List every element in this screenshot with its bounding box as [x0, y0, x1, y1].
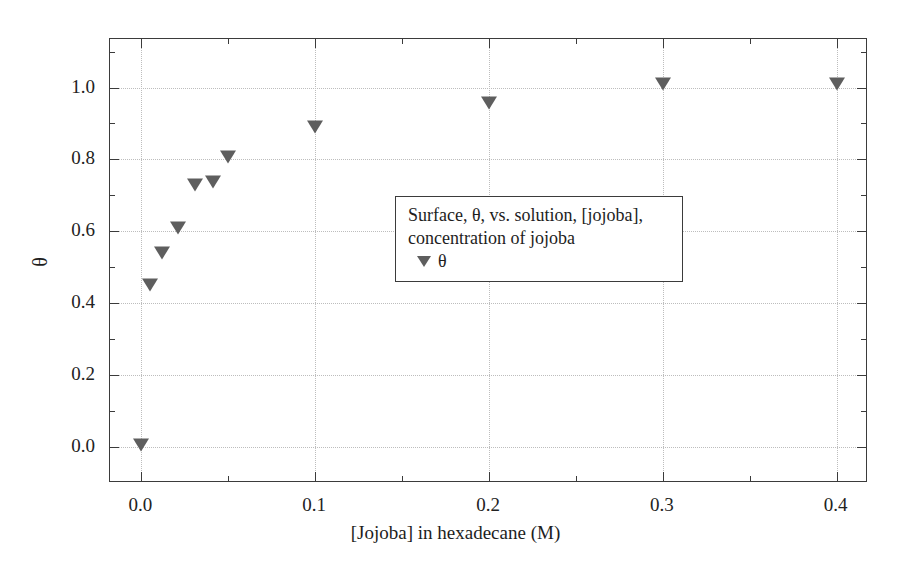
- x-axis-tick: [489, 39, 490, 48]
- y-axis-minor-tick: [861, 52, 866, 53]
- y-axis-minor-tick: [110, 339, 115, 340]
- data-point-marker: [307, 121, 323, 134]
- gridline-horizontal: [110, 88, 866, 89]
- y-axis-tick: [857, 88, 866, 89]
- data-point-marker: [170, 221, 186, 234]
- y-axis-minor-tick: [861, 123, 866, 124]
- y-axis-minor-tick: [110, 267, 115, 268]
- y-axis-tick-label: 1.0: [37, 76, 95, 98]
- y-axis-tick-label: 0.6: [37, 219, 95, 241]
- data-point-marker: [655, 77, 671, 90]
- x-axis-tick: [663, 39, 664, 48]
- data-point-marker: [829, 77, 845, 90]
- y-axis-tick-label: 0.4: [37, 291, 95, 313]
- data-point-marker: [481, 96, 497, 109]
- x-axis-minor-tick: [576, 476, 577, 481]
- legend-entry-label: θ: [438, 251, 447, 272]
- x-axis-minor-tick: [750, 39, 751, 44]
- triangle-down-icon: [417, 256, 431, 267]
- y-axis-tick: [110, 447, 119, 448]
- gridline-vertical: [315, 39, 316, 481]
- gridline-vertical: [141, 39, 142, 481]
- chart-legend: Surface, θ, vs. solution, [jojoba], conc…: [395, 196, 683, 282]
- gridline-horizontal: [110, 303, 866, 304]
- y-axis-minor-tick: [861, 339, 866, 340]
- data-point-marker: [205, 175, 221, 188]
- data-point-marker: [220, 151, 236, 164]
- x-axis-tick: [315, 472, 316, 481]
- x-axis-tick-label: 0.2: [476, 494, 500, 516]
- data-point-marker: [142, 279, 158, 292]
- y-axis-tick: [857, 447, 866, 448]
- y-axis-tick: [857, 231, 866, 232]
- y-axis-tick: [857, 159, 866, 160]
- x-axis-minor-tick: [228, 39, 229, 44]
- gridline-vertical: [837, 39, 838, 481]
- x-axis-minor-tick: [402, 476, 403, 481]
- x-axis-title: [Jojoba] in hexadecane (M): [0, 522, 911, 544]
- y-axis-minor-tick: [110, 411, 115, 412]
- y-axis-minor-tick: [110, 52, 115, 53]
- x-axis-tick: [141, 39, 142, 48]
- legend-entry-theta: θ: [408, 251, 672, 272]
- x-axis-tick: [663, 472, 664, 481]
- y-axis-tick: [110, 159, 119, 160]
- y-axis-tick: [857, 375, 866, 376]
- x-axis-tick: [489, 472, 490, 481]
- x-axis-tick: [315, 39, 316, 48]
- data-point-marker: [187, 179, 203, 192]
- x-axis-minor-tick: [228, 476, 229, 481]
- data-point-marker: [133, 439, 149, 452]
- x-axis-tick-label: 0.3: [650, 494, 674, 516]
- y-axis-tick: [110, 231, 119, 232]
- gridline-horizontal: [110, 447, 866, 448]
- x-axis-tick: [837, 39, 838, 48]
- y-axis-minor-tick: [861, 195, 866, 196]
- y-axis-tick-label: 0.2: [37, 363, 95, 385]
- data-point-marker: [154, 246, 170, 259]
- y-axis-tick: [857, 303, 866, 304]
- x-axis-tick-label: 0.4: [824, 494, 848, 516]
- gridline-horizontal: [110, 375, 866, 376]
- y-axis-minor-tick: [110, 123, 115, 124]
- scatter-chart-figure: [Jojoba] in hexadecane (M) θ Surface, θ,…: [0, 0, 911, 568]
- y-axis-title: θ: [29, 257, 52, 267]
- x-axis-tick-label: 0.0: [128, 494, 152, 516]
- y-axis-tick-label: 0.0: [37, 435, 95, 457]
- y-axis-tick: [110, 303, 119, 304]
- x-axis-minor-tick: [576, 39, 577, 44]
- x-axis-tick: [837, 472, 838, 481]
- x-axis-tick: [141, 472, 142, 481]
- legend-description-line-1: Surface, θ, vs. solution, [jojoba],: [408, 204, 672, 227]
- y-axis-minor-tick: [861, 267, 866, 268]
- x-axis-minor-tick: [402, 39, 403, 44]
- y-axis-tick: [110, 375, 119, 376]
- x-axis-tick-label: 0.1: [302, 494, 326, 516]
- x-axis-minor-tick: [750, 476, 751, 481]
- y-axis-minor-tick: [110, 195, 115, 196]
- y-axis-minor-tick: [861, 411, 866, 412]
- y-axis-tick-label: 0.8: [37, 147, 95, 169]
- legend-description-line-2: concentration of jojoba: [408, 227, 672, 250]
- y-axis-tick: [110, 88, 119, 89]
